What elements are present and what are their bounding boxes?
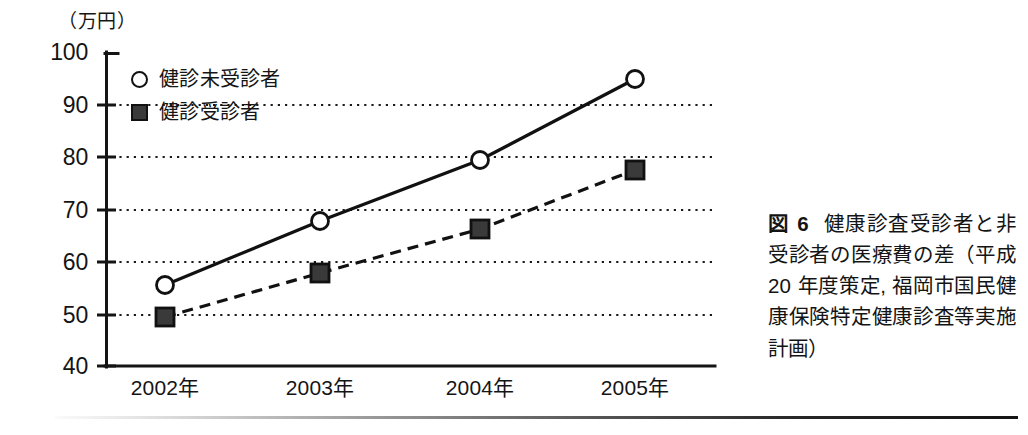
data-point-screened-2005	[626, 161, 644, 179]
x-tick-label-2003: 2003年	[250, 377, 390, 398]
chart-legend: 健診未受診者 健診受診者	[131, 66, 281, 125]
y-tick-label-90: 90	[32, 94, 88, 117]
legend-label-screened: 健診受診者	[159, 102, 261, 122]
y-tick-label-80: 80	[32, 146, 88, 169]
filled-square-marker-icon	[131, 104, 148, 121]
y-tick-label-70: 70	[32, 199, 88, 222]
data-point-screened-2002	[156, 308, 174, 326]
gridlines	[105, 105, 715, 315]
figure-caption: 図 6 健康診査受診者と非受診者の医療費の差（平成 20 年度策定, 福岡市国民…	[768, 208, 1016, 364]
data-point-screened-2003	[311, 264, 329, 282]
figure-caption-label: 図 6	[768, 212, 809, 235]
y-tick-label-40: 40	[32, 355, 88, 378]
data-point-unscreened-2003	[312, 213, 329, 230]
y-tick-label-100: 100	[32, 41, 88, 64]
figure-caption-gap	[809, 212, 823, 235]
data-point-unscreened-2005	[627, 71, 644, 88]
open-circle-marker-icon	[131, 71, 148, 88]
line-chart: 100 90 80 70 60 50 40 2002年 2003年 2004年 …	[0, 0, 760, 400]
plot-area	[0, 0, 760, 400]
data-point-unscreened-2002	[157, 277, 174, 294]
legend-label-unscreened: 健診未受診者	[159, 69, 281, 89]
figure-page: （万円）	[0, 0, 1028, 435]
x-tick-label-2002: 2002年	[95, 377, 235, 398]
x-tick-label-2004: 2004年	[410, 377, 550, 398]
legend-item-unscreened: 健診未受診者	[131, 66, 281, 92]
y-tick-label-60: 60	[32, 251, 88, 274]
data-points-screened	[156, 161, 644, 326]
y-tick-label-50: 50	[32, 304, 88, 327]
data-point-unscreened-2004	[472, 152, 489, 169]
page-divider-rule	[55, 416, 1018, 419]
x-tick-label-2005: 2005年	[565, 377, 705, 398]
legend-item-screened: 健診受診者	[131, 99, 281, 125]
data-point-screened-2004	[471, 220, 489, 238]
